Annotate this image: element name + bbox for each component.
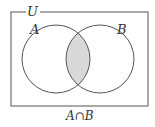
venn-diagram: U A B A∩B [0,0,155,127]
set-a-label: A [29,22,39,37]
set-b-label: B [116,22,127,37]
universe-label: U [27,4,39,19]
caption: A∩B [65,109,94,123]
